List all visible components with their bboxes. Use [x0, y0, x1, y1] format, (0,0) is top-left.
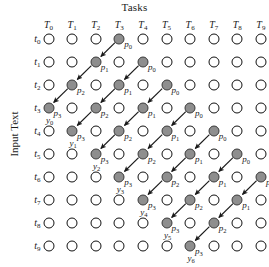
- idle-node: [232, 79, 243, 90]
- output-label-text: y0: [46, 115, 53, 125]
- idle-node: [114, 217, 125, 228]
- stage-label-p2: p2: [219, 223, 227, 234]
- stage-label-text: p0: [148, 62, 156, 72]
- row-label-t8: t8: [25, 216, 41, 229]
- idle-node: [137, 171, 148, 182]
- row-label-t7: t7: [25, 193, 41, 206]
- column-label-text: T9: [256, 19, 265, 30]
- active-node: [90, 102, 101, 113]
- idle-node: [137, 240, 148, 251]
- column-label-t2: T2: [91, 19, 100, 32]
- stage-label-text: p3: [124, 177, 132, 187]
- row-label-t3: t3: [25, 101, 41, 114]
- output-label-y0: y0: [46, 115, 53, 126]
- idle-node: [67, 240, 78, 251]
- active-node: [208, 171, 219, 182]
- idle-node: [185, 79, 196, 90]
- stage-label-p2: p2: [77, 85, 85, 96]
- stage-label-p0: p0: [172, 85, 180, 96]
- idle-node: [208, 194, 219, 205]
- active-node: [114, 171, 125, 182]
- stage-label-p3: p3: [148, 200, 156, 211]
- stage-label-p1: p1: [124, 85, 132, 96]
- column-label-t1: T1: [68, 19, 77, 32]
- idle-node: [255, 33, 266, 44]
- stage-label-text: p3: [172, 223, 180, 233]
- stage-label-text: p2: [124, 131, 132, 141]
- column-label-text: T5: [162, 19, 171, 30]
- output-label-y1: y1: [69, 138, 76, 149]
- active-node: [137, 148, 148, 159]
- dataflow-arrow: [172, 112, 186, 126]
- row-label-t9: t9: [25, 239, 41, 252]
- idle-node: [67, 102, 78, 113]
- stage-label-text: p1: [124, 85, 132, 95]
- idle-node: [90, 79, 101, 90]
- active-node: [208, 125, 219, 136]
- stage-label-text: p0: [195, 108, 203, 118]
- dataflow-arrow: [54, 89, 68, 103]
- active-node: [185, 194, 196, 205]
- stage-label-text: p0: [266, 177, 269, 187]
- stage-label-p1: p1: [101, 62, 109, 73]
- stage-label-text: p1: [242, 200, 250, 210]
- output-label-y4: y4: [140, 207, 147, 218]
- output-label-y3: y3: [117, 184, 124, 195]
- dataflow-arrow: [124, 112, 138, 126]
- idle-node: [43, 56, 54, 67]
- idle-node: [161, 148, 172, 159]
- idle-node: [67, 194, 78, 205]
- column-label-text: T7: [209, 19, 218, 30]
- stage-label-text: p2: [172, 177, 180, 187]
- dataflow-arrow: [195, 135, 209, 149]
- idle-node: [255, 56, 266, 67]
- idle-node: [43, 148, 54, 159]
- active-node: [90, 148, 101, 159]
- stage-label-text: p3: [148, 200, 156, 210]
- idle-node: [232, 171, 243, 182]
- input-text-axis-title: Input Text: [8, 74, 20, 194]
- idle-node: [90, 171, 101, 182]
- active-node: [90, 56, 101, 67]
- idle-node: [114, 102, 125, 113]
- active-node: [43, 102, 54, 113]
- stage-label-text: p0: [124, 39, 132, 49]
- idle-node: [67, 148, 78, 159]
- idle-node: [43, 194, 54, 205]
- figure-root: Tasks Input Text T0T1T2T3T4T5T6T7T8T9 t0…: [0, 0, 269, 267]
- stage-label-p0: p0: [148, 62, 156, 73]
- dataflow-arrow: [148, 135, 162, 149]
- dataflow-arrow: [148, 181, 162, 195]
- active-node: [185, 102, 196, 113]
- stage-label-p0: p0: [266, 177, 269, 188]
- idle-node: [255, 217, 266, 228]
- idle-node: [208, 79, 219, 90]
- stage-label-p2: p2: [101, 108, 109, 119]
- output-label-y2: y2: [93, 161, 100, 172]
- row-label-text: t9: [34, 239, 40, 250]
- stage-label-text: p2: [195, 200, 203, 210]
- dataflow-arrow: [124, 66, 138, 80]
- active-node: [114, 79, 125, 90]
- idle-node: [232, 240, 243, 251]
- output-label-y6: y6: [187, 253, 194, 264]
- stage-label-p3: p3: [101, 154, 109, 165]
- active-node: [137, 102, 148, 113]
- column-label-t9: T9: [256, 19, 265, 32]
- dataflow-arrow: [195, 181, 209, 195]
- idle-node: [114, 240, 125, 251]
- active-node: [161, 217, 172, 228]
- column-label-t4: T4: [138, 19, 147, 32]
- idle-node: [232, 33, 243, 44]
- dataflow-arrow: [219, 158, 233, 172]
- column-label-text: T4: [138, 19, 147, 30]
- dataflow-arrow: [172, 158, 186, 172]
- active-node: [67, 125, 78, 136]
- stage-label-p1: p1: [195, 154, 203, 165]
- dataflow-arrow: [101, 89, 115, 103]
- idle-node: [90, 217, 101, 228]
- row-label-t0: t0: [25, 32, 41, 45]
- idle-node: [43, 33, 54, 44]
- dataflow-arrow: [242, 181, 256, 195]
- idle-node: [114, 194, 125, 205]
